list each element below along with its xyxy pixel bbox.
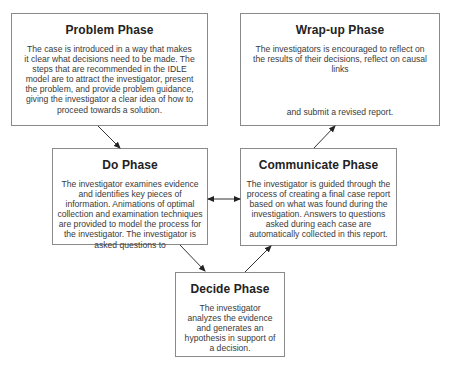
- node-communicate-phase: Communicate Phase The investigator is gu…: [240, 148, 397, 246]
- node-description: The case is introduced in a way that mak…: [24, 44, 195, 115]
- node-title: Communicate Phase: [241, 158, 396, 172]
- node-description: The investigator is guided through the p…: [244, 179, 393, 240]
- node-title: Decide Phase: [176, 282, 284, 296]
- node-title: Wrap-up Phase: [241, 23, 439, 37]
- node-title: Do Phase: [53, 158, 207, 172]
- node-do-phase: Do Phase The investigator examines evide…: [52, 148, 208, 245]
- node-wrapup-phase: Wrap-up Phase The investigators is encou…: [240, 13, 440, 126]
- node-description: The investigator analyzes the evidence a…: [184, 303, 276, 353]
- arrow-problem-to-do: [98, 126, 120, 148]
- node-description: The investigator examines evidence and i…: [57, 179, 203, 250]
- arrow-communicate-to-wrapup: [314, 126, 335, 148]
- node-title: Problem Phase: [12, 23, 207, 37]
- arrow-decide-to-communicate: [245, 246, 271, 272]
- node-description: The investigators is encouraged to refle…: [251, 44, 429, 74]
- node-decide-phase: Decide Phase The investigator analyzes t…: [175, 272, 285, 357]
- node-description-tail: and submit a revised report.: [241, 107, 439, 117]
- node-problem-phase: Problem Phase The case is introduced in …: [11, 13, 208, 126]
